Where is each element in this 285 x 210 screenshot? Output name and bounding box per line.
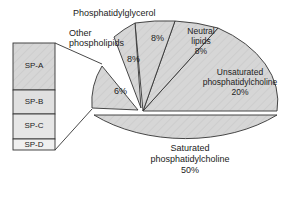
callout-line-top	[55, 43, 102, 64]
slice-saturated-pc	[94, 115, 277, 139]
callout-line-bottom	[55, 109, 92, 150]
protein-breakdown-stack	[13, 43, 55, 150]
pie-chart	[0, 0, 285, 210]
